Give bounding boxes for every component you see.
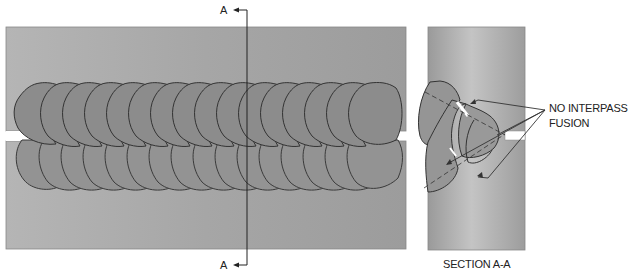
upper-bead-row: [14, 83, 402, 147]
section-marker-top: A: [220, 4, 227, 16]
plan-view: [6, 8, 406, 268]
section-marker-bottom: A: [220, 259, 227, 271]
lower-bead-row: [16, 140, 402, 190]
section-view: [418, 27, 545, 250]
section-caption: SECTION A-A: [443, 258, 510, 270]
callout-label-line2: FUSION: [549, 117, 589, 129]
root-gap: [6, 131, 20, 141]
section-root-gap: [505, 131, 525, 140]
arrow-head-bottom-icon: [233, 263, 239, 268]
arrow-head-top-icon: [233, 8, 239, 13]
callout-label-line1: NO INTERPASS: [549, 102, 628, 114]
